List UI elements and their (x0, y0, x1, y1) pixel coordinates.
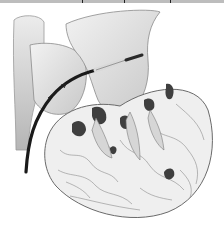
heart-illustration (0, 0, 224, 228)
heart-drawing (0, 0, 224, 228)
